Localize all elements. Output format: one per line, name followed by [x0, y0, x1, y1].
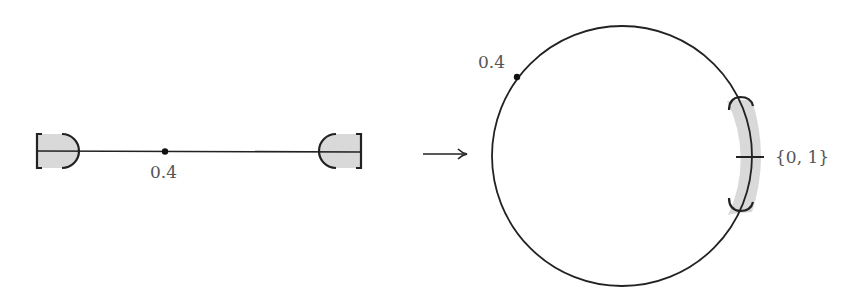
circle: [492, 26, 752, 286]
interval-line: [37, 151, 361, 152]
interval-figure: 0.4: [37, 134, 361, 182]
arrow-icon: [423, 149, 467, 159]
circle-endpoint-label: {0, 1}: [775, 147, 829, 167]
interval-point-label: 0.4: [150, 162, 177, 182]
circle-point: [514, 74, 520, 80]
quotient-diagram: 0.4 0.4 {0, 1}: [0, 0, 862, 297]
circle-figure: 0.4 {0, 1}: [478, 26, 829, 286]
circle-point-label: 0.4: [478, 52, 505, 72]
interval-point: [162, 148, 168, 154]
